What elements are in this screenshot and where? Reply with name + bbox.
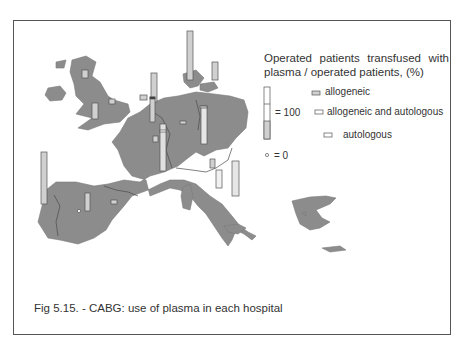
continent-shape (38, 92, 256, 246)
chart-title: Operated patients transfused with plasma… (264, 51, 449, 79)
legend-autologous: autologous (343, 129, 392, 140)
legend-swatch-allo-auto (315, 110, 323, 114)
legend-swatch-autologous (324, 133, 332, 137)
greece-shape (292, 196, 336, 230)
figure-caption: Fig 5.15. - CABG: use of plasma in each … (34, 302, 283, 314)
legend-allogeneic: allogeneic (325, 86, 370, 97)
legend-zero-marker (265, 153, 268, 156)
legend-100-label: = 100 (275, 107, 300, 118)
ireland-shape (45, 86, 66, 101)
great-britain-shape (70, 56, 130, 130)
legend-0-label: = 0 (274, 150, 288, 161)
legend-swatch-allogeneic (312, 91, 320, 95)
legend-allo-auto: allogeneic and autologous (327, 106, 443, 117)
